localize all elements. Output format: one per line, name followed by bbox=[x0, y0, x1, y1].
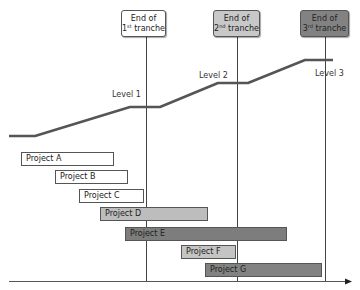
level-label-3: Level 3 bbox=[315, 69, 344, 78]
level-label-1: Level 1 bbox=[112, 90, 141, 99]
project-bar-a: Project A bbox=[21, 152, 114, 166]
tranche-line2: 1st tranche bbox=[122, 24, 165, 34]
diagram-lines bbox=[0, 0, 360, 290]
project-bar-f: Project F bbox=[181, 245, 236, 259]
tranche-box-2: End of 2nd tranche bbox=[213, 10, 260, 37]
project-bar-e: Project E bbox=[125, 227, 287, 241]
time-axis-arrow-icon bbox=[345, 279, 352, 285]
tranche-box-3: End of 3rd tranche bbox=[300, 10, 349, 37]
project-bar-b: Project B bbox=[55, 170, 128, 184]
tranche-line2: 2nd tranche bbox=[214, 24, 259, 34]
tranche-line2: 3rd tranche bbox=[301, 24, 348, 34]
tranche-vertical-lines bbox=[147, 37, 326, 281]
project-bar-d: Project D bbox=[100, 207, 208, 221]
level-label-2: Level 2 bbox=[199, 71, 228, 80]
tranche-project-diagram: End of 1st tranche End of 2nd tranche En… bbox=[0, 0, 360, 290]
tranche-box-1: End of 1st tranche bbox=[121, 10, 166, 37]
level-step-line bbox=[9, 60, 333, 136]
project-bar-c: Project C bbox=[79, 189, 144, 203]
project-bar-g: Project G bbox=[205, 263, 322, 277]
